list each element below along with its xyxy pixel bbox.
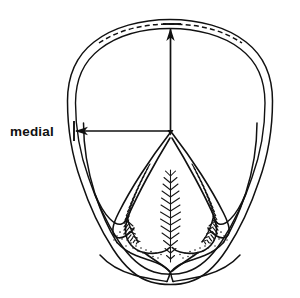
hoof-diagram-svg: medial	[0, 0, 300, 298]
medial-label: medial	[10, 124, 54, 139]
hoof-diagram-figure: medial	[0, 0, 300, 298]
